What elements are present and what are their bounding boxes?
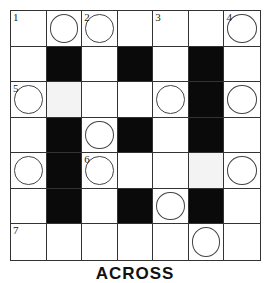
grid-cell[interactable]	[82, 118, 118, 154]
circle-marker-icon	[50, 14, 79, 43]
circle-marker-icon	[192, 227, 221, 257]
grid-cell[interactable]	[47, 82, 83, 118]
black-square	[47, 47, 83, 83]
crossword-grid: 1234567	[10, 10, 261, 261]
black-square	[47, 118, 83, 154]
grid-cell[interactable]	[11, 47, 47, 83]
grid-cell[interactable]	[82, 47, 118, 83]
across-heading: ACROSS	[0, 264, 270, 283]
black-square	[118, 47, 154, 83]
black-square	[47, 189, 83, 225]
grid-cell[interactable]	[47, 224, 83, 260]
grid-cell[interactable]	[118, 153, 154, 189]
black-square	[189, 82, 225, 118]
grid-cell[interactable]	[224, 118, 260, 154]
grid-cell[interactable]	[118, 82, 154, 118]
black-square	[189, 118, 225, 154]
grid-cell[interactable]	[153, 224, 189, 260]
clue-number: 6	[84, 153, 90, 165]
circle-marker-icon	[85, 121, 114, 150]
grid-cell[interactable]	[11, 153, 47, 189]
grid-cell[interactable]	[224, 47, 260, 83]
grid-cell[interactable]	[11, 118, 47, 154]
circle-marker-icon	[227, 156, 257, 185]
grid-cell[interactable]	[189, 224, 225, 260]
grid-cell[interactable]	[118, 224, 154, 260]
clue-number: 4	[226, 11, 232, 23]
grid-cell[interactable]: 2	[82, 11, 118, 47]
clue-number: 7	[13, 224, 19, 236]
clue-number: 2	[84, 11, 90, 23]
grid-cell[interactable]	[224, 82, 260, 118]
circle-marker-icon	[14, 156, 43, 185]
black-square	[189, 47, 225, 83]
grid-cell[interactable]: 6	[82, 153, 118, 189]
grid-cell[interactable]	[153, 189, 189, 225]
grid-cell[interactable]	[224, 153, 260, 189]
black-square	[118, 189, 154, 225]
grid-cell[interactable]	[11, 189, 47, 225]
clue-number: 3	[155, 11, 161, 23]
grid-cell[interactable]	[47, 11, 83, 47]
grid-cell[interactable]: 1	[11, 11, 47, 47]
grid-cell[interactable]	[118, 11, 154, 47]
black-square	[189, 189, 225, 225]
grid-cell[interactable]: 5	[11, 82, 47, 118]
black-square	[47, 153, 83, 189]
clue-number: 5	[13, 82, 19, 94]
grid-cell[interactable]	[224, 224, 260, 260]
grid-cell[interactable]	[189, 153, 225, 189]
grid-cell[interactable]: 3	[153, 11, 189, 47]
circle-marker-icon	[227, 85, 257, 114]
grid-cell[interactable]	[153, 153, 189, 189]
black-square	[118, 118, 154, 154]
circle-marker-icon	[156, 85, 185, 114]
grid-cell[interactable]	[153, 118, 189, 154]
grid-cell[interactable]: 4	[224, 11, 260, 47]
grid-cell[interactable]	[82, 189, 118, 225]
grid-cell[interactable]: 7	[11, 224, 47, 260]
grid-cell[interactable]	[82, 224, 118, 260]
clue-number: 1	[13, 11, 19, 23]
grid-cell[interactable]	[153, 47, 189, 83]
grid-cell[interactable]	[224, 189, 260, 225]
grid-cell[interactable]	[189, 11, 225, 47]
grid-cell[interactable]	[153, 82, 189, 118]
circle-marker-icon	[156, 192, 185, 221]
grid-cell[interactable]	[82, 82, 118, 118]
